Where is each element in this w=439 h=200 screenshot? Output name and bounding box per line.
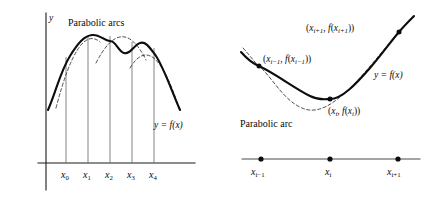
left-function-label-arg: (x) <box>172 120 183 131</box>
parabolic-arc-right <box>130 55 180 111</box>
tick-label-x0: x0 <box>60 169 69 181</box>
number-line-label-i: xi <box>324 166 331 178</box>
tick-label-x2: x2 <box>104 169 113 181</box>
left-function-label-y: y <box>153 120 159 130</box>
label-point-i: (xi, f(xi)) <box>328 106 360 117</box>
curve-point-i-minus-1 <box>257 64 262 69</box>
number-line-label-i-minus-1: xi−1 <box>250 166 265 178</box>
curve-point-i <box>328 97 333 102</box>
function-curve <box>48 35 180 110</box>
number-line-dot-i-minus-1 <box>258 156 263 161</box>
tick-label-x3: x3 <box>126 169 135 181</box>
left-panel-title: Parabolic arcs <box>68 17 124 28</box>
right-function-label: y = f(x) <box>373 70 403 81</box>
svg-text:y=f(x): y=f(x) <box>153 120 183 131</box>
number-line-label-i-plus-1: xi+1 <box>386 166 401 178</box>
tick-label-x1: x1 <box>82 169 91 181</box>
label-point-i-plus-1: (xi+1, f(xi+1)) <box>306 23 354 34</box>
number-line-dot-i-plus-1 <box>395 156 400 161</box>
right-panel: (xi+1, f(xi+1)) (xi−1, f(xi−1)) (xi, f(x… <box>240 16 420 178</box>
left-function-label: y=f(x) <box>153 120 183 131</box>
left-panel: Parabolic arcs y y=f(x) x0 x1 x2 x3 x4 <box>38 13 195 190</box>
left-function-label-equals: = <box>161 120 166 130</box>
parabolic-arcs-figure: Parabolic arcs y y=f(x) x0 x1 x2 x3 x4 <box>0 0 439 200</box>
tick-label-x4: x4 <box>148 169 157 181</box>
label-point-i-minus-1: (xi−1, f(xi−1)) <box>263 54 311 65</box>
right-arc-caption: Parabolic arc <box>240 118 293 129</box>
number-line-dot-i <box>327 156 332 161</box>
curve-point-i-plus-1 <box>397 30 402 35</box>
y-axis-label: y <box>48 13 54 23</box>
left-tick-labels: x0 x1 x2 x3 x4 <box>60 169 157 181</box>
